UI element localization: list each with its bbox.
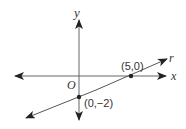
point-5-0-label: (5,0) (121, 60, 144, 72)
point-5-0 (129, 74, 133, 78)
point-0-neg2 (77, 95, 81, 99)
x-axis-label: x (170, 69, 177, 83)
point-0-neg2-label: (0,−2) (84, 97, 113, 109)
line-r (26, 59, 167, 118)
coordinate-diagram: y x r O (5,0) (0,−2) (0, 0, 186, 129)
line-r-label: r (169, 51, 174, 65)
diagram-svg: y x r O (5,0) (0,−2) (0, 0, 186, 129)
y-axis-label: y (72, 5, 80, 20)
origin-label: O (67, 78, 76, 92)
